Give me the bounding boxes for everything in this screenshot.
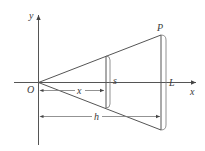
x-axis-label: x xyxy=(189,86,195,97)
slant-length-label: L xyxy=(168,77,175,88)
height-label: h xyxy=(94,111,99,122)
origin-label: O xyxy=(27,84,34,95)
y-axis-label: y xyxy=(28,10,34,21)
slice-distance-label: x xyxy=(76,85,82,96)
cone-slice-diagram: y x O P L s x h xyxy=(0,0,205,151)
slice-side-label: s xyxy=(113,75,117,86)
apex-label: P xyxy=(156,22,163,33)
lower-slant-edge xyxy=(39,83,162,131)
upper-slant-edge xyxy=(39,35,162,83)
